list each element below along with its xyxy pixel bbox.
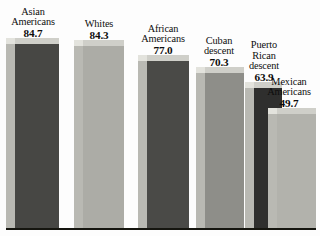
bar-front-face — [15, 44, 59, 228]
bar-label-african-americans: African Americans 77.0 — [130, 24, 196, 56]
bar-front-face — [147, 61, 189, 228]
bar-category-line: Whites — [70, 19, 128, 30]
bar-column — [196, 67, 244, 228]
bar-category-line: descent — [236, 61, 292, 72]
bar-left-face — [268, 114, 277, 228]
bar-group-whites — [74, 40, 124, 228]
bar-column — [138, 55, 189, 228]
bar-value-label: 49.7 — [258, 98, 320, 109]
bar-category-line: Puerto — [236, 40, 292, 51]
bar-value-label: 77.0 — [130, 45, 196, 56]
bar-left-face — [74, 46, 83, 228]
bar-left-face — [138, 61, 147, 228]
bar-column — [74, 40, 124, 228]
bar-group-african-americans — [138, 55, 189, 228]
bar-category-line: Americans — [130, 34, 196, 45]
bar-group-mexican-americans — [268, 108, 316, 228]
bar-left-face — [196, 73, 205, 228]
bar-front-face — [277, 114, 316, 228]
bar-label-mexican-americans: Mexican Americans 49.7 — [258, 77, 320, 109]
bar-value-label: 84.7 — [0, 28, 66, 39]
bar-group-cuban-descent — [196, 67, 244, 228]
bar-front-face — [83, 46, 124, 228]
baseline-axis — [6, 228, 316, 230]
bar-value-label: 84.3 — [70, 30, 128, 41]
bar-column — [268, 108, 316, 228]
bar-column — [6, 38, 59, 228]
bar-chart: Asian Americans 84.7 Whites 84.3 African… — [0, 0, 320, 236]
bar-label-whites: Whites 84.3 — [70, 19, 128, 41]
bar-label-asian-americans: Asian Americans 84.7 — [0, 7, 66, 39]
bar-category-line: Americans — [0, 17, 66, 28]
bar-left-face — [6, 44, 15, 228]
bar-front-face — [205, 73, 244, 228]
bar-left-face — [245, 88, 254, 228]
bar-category-line: Americans — [258, 87, 320, 98]
bar-group-asian-americans — [6, 38, 59, 228]
